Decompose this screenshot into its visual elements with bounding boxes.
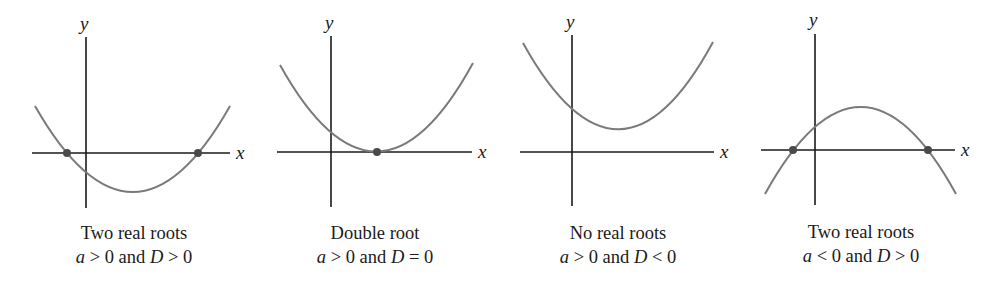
root-marker <box>373 148 381 156</box>
panel-two-real-roots-a-positive: x y <box>32 13 245 208</box>
caption-panel-4: Two real roots a < 0 and D > 0 <box>741 220 981 268</box>
parabola-curve <box>523 42 713 129</box>
caption-panel-3: No real roots a > 0 and D < 0 <box>498 221 738 269</box>
panel-double-root: x y <box>277 12 487 207</box>
root-marker <box>63 149 71 157</box>
caption-condition: a > 0 and D = 0 <box>255 245 495 269</box>
caption-title: No real roots <box>498 221 738 245</box>
caption-condition: a > 0 and D > 0 <box>14 245 254 269</box>
x-axis-label: x <box>235 142 245 163</box>
caption-condition: a > 0 and D < 0 <box>498 245 738 269</box>
caption-panel-1: Two real roots a > 0 and D > 0 <box>14 221 254 269</box>
root-marker <box>789 146 797 154</box>
y-axis-label: y <box>323 12 334 33</box>
x-axis-label: x <box>960 139 970 160</box>
caption-title: Two real roots <box>14 221 254 245</box>
y-axis-label: y <box>564 11 575 32</box>
parabola-curve <box>35 106 230 192</box>
root-marker <box>924 146 932 154</box>
y-axis-label: y <box>807 9 818 30</box>
x-axis-label: x <box>477 141 487 162</box>
y-axis-label: y <box>78 13 89 34</box>
caption-title: Two real roots <box>741 220 981 244</box>
panel-no-real-roots: x y <box>520 11 729 206</box>
x-axis-label: x <box>719 141 729 162</box>
caption-panel-2: Double root a > 0 and D = 0 <box>255 221 495 269</box>
root-marker <box>194 149 202 157</box>
panel-two-real-roots-a-negative: x y <box>761 9 970 205</box>
caption-condition: a < 0 and D > 0 <box>741 244 981 268</box>
caption-title: Double root <box>255 221 495 245</box>
parabola-curve <box>280 63 473 152</box>
